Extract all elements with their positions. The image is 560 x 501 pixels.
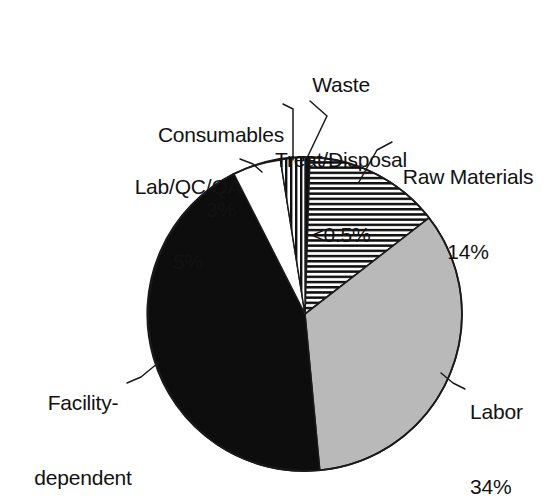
pie-label-facility-dependent: Facility- dependent 44% bbox=[8, 340, 158, 501]
pie-label-lab-qc-qa-line1: Lab/QC/QA bbox=[108, 174, 268, 199]
pie-label-raw-materials-line1: Raw Materials bbox=[384, 164, 552, 189]
pie-label-raw-materials: Raw Materials 14% bbox=[384, 114, 552, 314]
pie-label-facility-dependent-line1: Facility- bbox=[8, 390, 158, 415]
pie-label-lab-qc-qa-value: 5% bbox=[108, 249, 268, 274]
pie-label-labor-line1: Labor bbox=[470, 399, 550, 424]
pie-label-facility-dependent-line2: dependent bbox=[8, 465, 158, 490]
pie-label-labor: Labor 34% bbox=[470, 349, 550, 501]
pie-chart-figure: Waste Treat/Disposal <0.5% Consumables 3… bbox=[0, 0, 560, 501]
pie-label-raw-materials-value: 14% bbox=[384, 239, 552, 264]
pie-label-lab-qc-qa: Lab/QC/QA 5% bbox=[108, 124, 268, 324]
pie-label-labor-value: 34% bbox=[470, 474, 550, 499]
